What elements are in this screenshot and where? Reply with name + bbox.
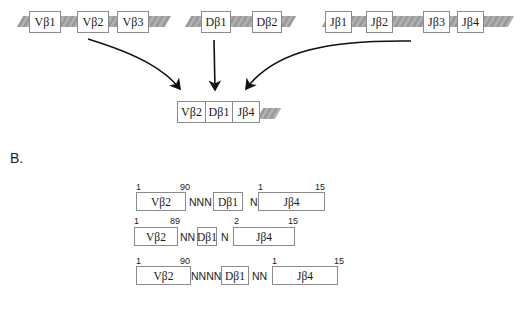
recombined-d-segment: Dβ1 <box>205 101 233 123</box>
row1-n2-region: N <box>250 196 258 208</box>
row1-j-end: 15 <box>315 182 325 192</box>
row3-v-segment: Vβ2 <box>136 266 191 285</box>
arrow-v-to-recombined <box>88 39 180 89</box>
row3-j-end: 15 <box>334 256 344 266</box>
recombined-j-segment: Jβ4 <box>232 101 260 123</box>
arrow-d-to-recombined <box>214 40 215 90</box>
row2-n1-region: NN <box>180 231 195 243</box>
row1-j-segment: Jβ4 <box>258 192 325 211</box>
row2-n2-region: N <box>221 231 229 243</box>
row3-v-end: 90 <box>180 256 190 266</box>
recombination-arrows <box>0 0 527 309</box>
row1-v-segment: Vβ2 <box>136 192 186 211</box>
row2-j-segment: Jβ4 <box>233 227 295 246</box>
row1-d-segment: Dβ1 <box>213 192 243 211</box>
recombined-v-segment: Vβ2 <box>177 101 206 123</box>
row2-v-start: 1 <box>134 216 139 226</box>
row1-j-start: 1 <box>258 182 263 192</box>
row3-d-segment: Dβ1 <box>221 266 249 285</box>
row2-j-start: 2 <box>234 216 239 226</box>
row3-v-start: 1 <box>136 256 141 266</box>
row1-v-end: 90 <box>180 182 190 192</box>
row3-j-segment: Jβ4 <box>272 266 338 285</box>
row2-j-end: 15 <box>288 216 298 226</box>
row2-d-segment: Dβ1 <box>197 227 217 246</box>
row3-n2-region: NN <box>252 270 267 282</box>
arrow-j-to-recombined <box>246 41 411 89</box>
row3-n1-region: NNNN <box>191 270 221 282</box>
row3-j-start: 1 <box>272 256 277 266</box>
panel-b-label: B. <box>10 150 23 166</box>
row2-v-segment: Vβ2 <box>134 227 178 246</box>
row1-v-start: 1 <box>136 182 141 192</box>
row1-n1-region: NNN <box>189 196 212 208</box>
row2-v-end: 89 <box>170 216 180 226</box>
